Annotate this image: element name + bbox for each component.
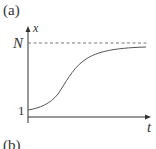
initial-value-label: 1 [18,104,25,117]
y-axis-label: x [33,22,38,34]
asymptote-label: N [13,36,23,51]
logistic-diagram [0,0,156,149]
panel-label-b: (b) [3,138,21,149]
logistic-curve [28,47,146,110]
x-axis-arrow-icon [26,26,31,32]
x-axis-label: t [147,120,151,135]
